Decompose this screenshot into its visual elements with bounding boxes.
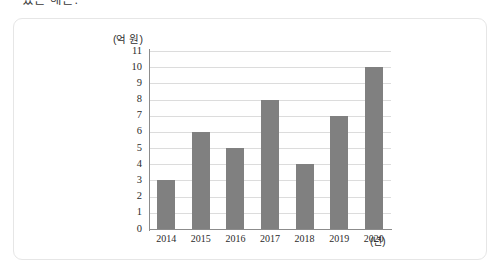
bar	[261, 100, 279, 229]
bar	[192, 132, 210, 229]
bar	[226, 148, 244, 229]
y-axis-tick-label: 10	[118, 61, 142, 72]
bar	[157, 180, 175, 229]
y-axis-tick-label: 3	[118, 174, 142, 185]
gridline	[149, 51, 391, 52]
y-axis-tick-label: 5	[118, 142, 142, 153]
x-axis-unit-label: (년)	[370, 233, 386, 248]
gridline	[149, 83, 391, 84]
y-axis-line	[149, 49, 150, 231]
x-axis-line	[149, 229, 392, 230]
y-axis-tick-label: 6	[118, 125, 142, 136]
y-axis-tick-label: 2	[118, 190, 142, 201]
y-axis-tick-label: 8	[118, 93, 142, 104]
y-axis-tick-label: 4	[118, 158, 142, 169]
bar	[365, 67, 383, 229]
chart-card: (억 원) 1110987654321020142015201620172018…	[13, 18, 487, 260]
gridline	[149, 67, 391, 68]
y-axis-tick-label: 0	[118, 223, 142, 234]
clipped-text-line: 있는 해는.	[22, 0, 78, 8]
bar	[330, 116, 348, 229]
bar-chart-figure: (억 원) 1110987654321020142015201620172018…	[14, 19, 488, 261]
plot-area	[149, 51, 391, 229]
y-axis-tick-label: 11	[118, 45, 142, 56]
y-axis-tick-label: 9	[118, 77, 142, 88]
y-axis-tick-label: 7	[118, 109, 142, 120]
clipped-body-text: 있는 해는.	[0, 0, 502, 12]
bar	[296, 164, 314, 229]
y-axis-tick-label: 1	[118, 206, 142, 217]
